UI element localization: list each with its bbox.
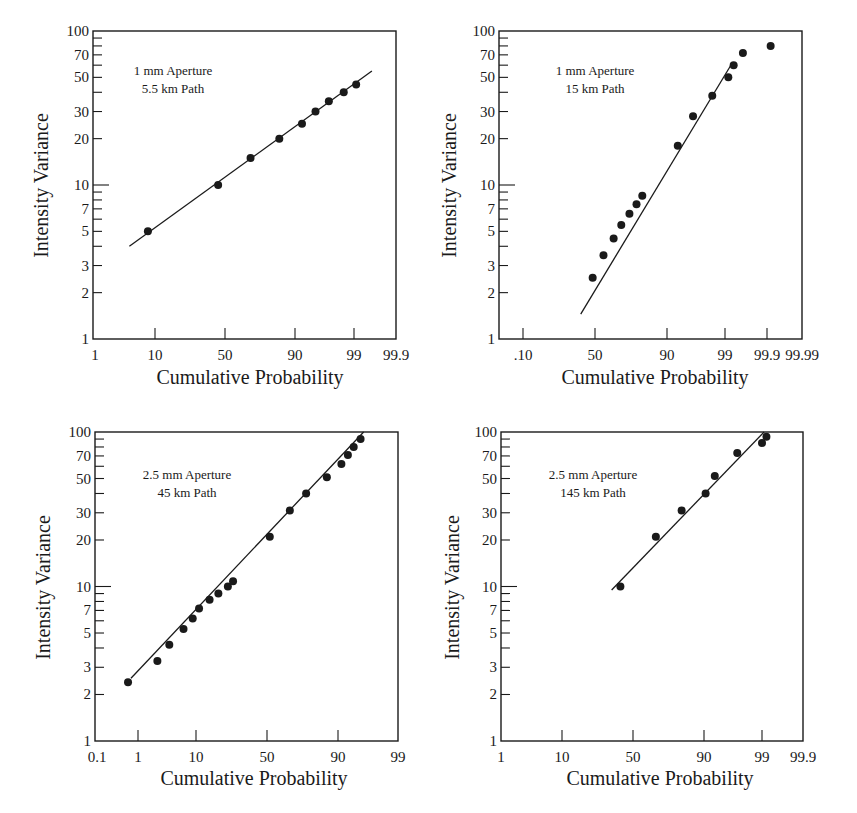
annotation-path: 145 km Path (534, 484, 652, 502)
x-tick-label: 99.9 (790, 749, 816, 765)
y-tick-label: 70 (482, 448, 497, 464)
y-tick-label: 10 (482, 579, 497, 595)
y-tick-label: 100 (475, 424, 498, 440)
x-tick-label: 99 (755, 749, 770, 765)
data-point (733, 449, 741, 457)
y-tick-label: 1 (490, 733, 498, 749)
fit-line (612, 432, 764, 590)
plot-annotation: 2.5 mm Aperture 145 km Path (534, 466, 652, 502)
x-tick-label: 1 (497, 749, 505, 765)
data-point (678, 507, 686, 515)
y-tick-label: 5 (490, 625, 498, 641)
y-axis-label: Intensity Variance (441, 503, 464, 673)
data-point (762, 433, 770, 441)
data-point (652, 533, 660, 541)
data-point (711, 472, 719, 480)
y-tick-label: 50 (482, 471, 497, 487)
y-tick-label: 20 (482, 532, 497, 548)
data-point (702, 489, 710, 497)
y-tick-label: 30 (482, 505, 497, 521)
y-tick-label: 7 (490, 602, 498, 618)
x-tick-label: 50 (626, 749, 641, 765)
x-tick-label: 90 (697, 749, 712, 765)
chart-panel-4: 12357102030507010011050909999.9 2.5 mm A… (0, 0, 857, 813)
plot-area: 12357102030507010011050909999.9 (0, 0, 857, 813)
x-tick-label: 10 (555, 749, 570, 765)
x-axis-label: Cumulative Probability (560, 767, 760, 790)
annotation-aperture: 2.5 mm Aperture (534, 466, 652, 484)
y-tick-label: 2 (490, 686, 498, 702)
data-point (616, 583, 624, 591)
y-tick-label: 3 (490, 659, 498, 675)
